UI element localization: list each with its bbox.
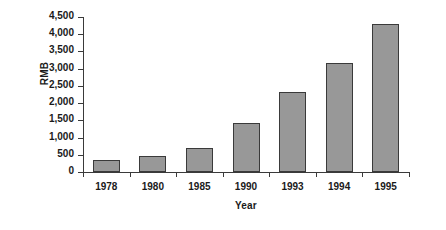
x-axis-tick [130,172,131,177]
bar [233,123,260,172]
x-axis-tick [83,172,84,177]
y-axis-tick-label: 500 [32,148,74,159]
x-axis-tick-label: 1978 [83,181,130,192]
y-axis-tick-label: 4,000 [32,27,74,38]
x-axis-tick-label: 1995 [362,181,409,192]
bar [326,63,353,172]
x-axis-tick-label: 1993 [269,181,316,192]
y-axis-tick-label: 2,000 [32,96,74,107]
y-axis-tick-label: 3,500 [32,44,74,55]
x-axis-tick [269,172,270,177]
bar [93,160,120,172]
bars-layer [83,17,409,172]
x-axis-tick-label: 1990 [223,181,270,192]
x-axis-tick-label: 1985 [176,181,223,192]
x-axis-title: Year [83,200,409,211]
bar [372,24,399,172]
bar [279,92,306,172]
x-axis-tick [223,172,224,177]
x-axis-tick [362,172,363,177]
y-axis-tick-label: 4,500 [32,10,74,21]
y-axis-tick-label: 0 [32,165,74,176]
y-axis-tick-label: 3,000 [32,62,74,73]
x-axis-tick-label: 1980 [130,181,177,192]
x-axis-tick [176,172,177,177]
y-axis-tick-label: 2,500 [32,79,74,90]
x-axis-tick [409,172,410,177]
y-axis-tick-label: 1,000 [32,131,74,142]
x-axis-tick-label: 1994 [316,181,363,192]
bar [186,148,213,172]
plot-area: 4,5004,0003,5003,0002,5002,0001,5001,000… [83,17,409,172]
y-axis-tick-label: 1,500 [32,113,74,124]
bar-chart: RMB 4,5004,0003,5003,0002,5002,0001,5001… [0,0,446,230]
x-axis-tick [316,172,317,177]
x-axis-line [78,172,409,173]
bar [139,156,166,172]
